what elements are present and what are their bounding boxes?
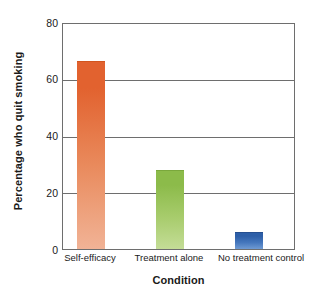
y-tick-label-80: 80 <box>38 18 58 29</box>
y-tick-label-60: 60 <box>38 74 58 85</box>
x-tick-label-no-treatment-control: No treatment control <box>205 253 317 263</box>
plot-area <box>62 23 295 250</box>
bar-no-treatment-control[interactable] <box>235 232 263 249</box>
bar-self-efficacy[interactable] <box>77 61 105 249</box>
x-tick-label-treatment-alone: Treatment alone <box>124 253 214 263</box>
bar-fill-treatment-alone <box>156 170 184 249</box>
x-tick-label-self-efficacy: Self-efficacy <box>52 253 128 263</box>
y-tick-label-40: 40 <box>38 131 58 142</box>
x-axis-tick-labels: Self-efficacy Treatment alone No treatme… <box>62 253 295 269</box>
x-axis-title: Condition <box>62 274 295 286</box>
bar-fill-self-efficacy <box>77 61 105 249</box>
bar-fill-no-treatment-control <box>235 232 263 249</box>
y-axis-title: Percentage who quit smoking <box>12 31 24 231</box>
bar-chart-figure: Percentage who quit smoking 80 60 40 20 … <box>0 0 327 299</box>
y-tick-label-20: 20 <box>38 188 58 199</box>
bar-treatment-alone[interactable] <box>156 170 184 249</box>
